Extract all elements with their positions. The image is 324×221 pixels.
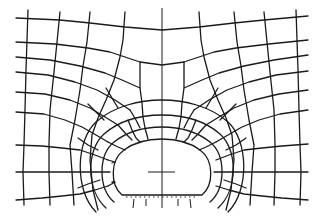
mesh-diagram bbox=[0, 0, 324, 221]
mesh-svg bbox=[0, 0, 324, 221]
